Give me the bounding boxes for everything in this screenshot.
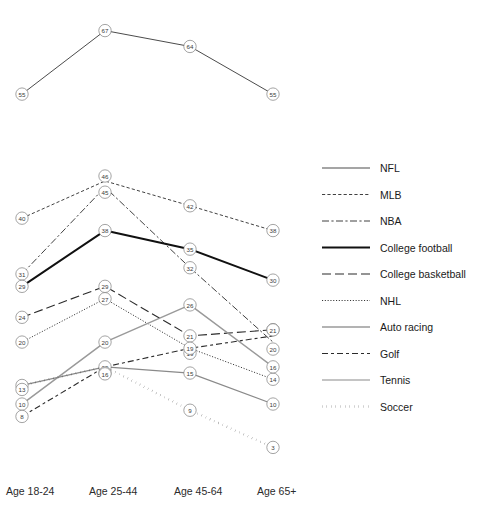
x-axis-labels: Age 18-24Age 25-44Age 45-64Age 65+ <box>6 485 296 497</box>
data-point: 26 <box>184 299 196 311</box>
data-point: 13 <box>16 383 28 395</box>
data-point: 64 <box>184 40 196 52</box>
data-point: 31 <box>16 268 28 280</box>
chart-legend: NFLMLBNBACollege footballCollege basketb… <box>322 162 466 413</box>
svg-text:55: 55 <box>19 91 26 98</box>
legend-label-college-football: College football <box>380 242 452 254</box>
legend-label-tennis: Tennis <box>380 374 410 386</box>
series-line-tennis <box>22 367 273 404</box>
data-point: 27 <box>99 293 111 305</box>
svg-text:10: 10 <box>19 401 26 408</box>
svg-text:30: 30 <box>270 277 277 284</box>
data-point: 9 <box>184 404 196 416</box>
svg-text:24: 24 <box>19 314 26 321</box>
legend-label-college-basketball: College basketball <box>380 268 466 280</box>
data-point: 29 <box>99 280 111 292</box>
svg-text:13: 13 <box>19 386 26 393</box>
x-axis-tick-2: Age 45-64 <box>174 485 223 497</box>
series-line-nba <box>22 187 273 342</box>
svg-text:26: 26 <box>187 302 194 309</box>
svg-text:45: 45 <box>102 189 109 196</box>
svg-text:21: 21 <box>187 333 194 340</box>
x-axis-tick-1: Age 25-44 <box>89 485 138 497</box>
series-line-college-basketball <box>22 286 273 336</box>
svg-text:16: 16 <box>270 364 277 371</box>
svg-text:38: 38 <box>102 227 109 234</box>
data-point: 21 <box>267 324 279 336</box>
data-point: 42 <box>184 200 196 212</box>
data-point: 38 <box>99 224 111 236</box>
data-point: 21 <box>184 330 196 342</box>
legend-label-nhl: NHL <box>380 295 401 307</box>
data-point: 14 <box>267 373 279 385</box>
svg-text:16: 16 <box>102 371 109 378</box>
svg-text:32: 32 <box>187 265 194 272</box>
svg-text:21: 21 <box>270 327 277 334</box>
svg-text:38: 38 <box>270 227 277 234</box>
data-point: 16 <box>99 368 111 380</box>
data-point: 10 <box>16 398 28 410</box>
data-point: 32 <box>184 262 196 274</box>
svg-text:3: 3 <box>271 444 275 451</box>
data-point: 55 <box>16 88 28 100</box>
data-point: 45 <box>99 186 111 198</box>
data-point: 3 <box>267 441 279 453</box>
data-point: 20 <box>99 336 111 348</box>
data-point: 24 <box>16 311 28 323</box>
legend-label-golf: Golf <box>380 348 399 360</box>
data-point: 38 <box>267 224 279 236</box>
svg-text:20: 20 <box>270 346 277 353</box>
legend-label-soccer: Soccer <box>380 401 413 413</box>
svg-text:29: 29 <box>19 283 26 290</box>
series-line-nfl <box>22 31 273 95</box>
data-point: 16 <box>267 361 279 373</box>
svg-text:35: 35 <box>187 246 194 253</box>
data-point: 20 <box>16 336 28 348</box>
legend-label-nba: NBA <box>380 215 402 227</box>
data-point: 40 <box>16 212 28 224</box>
svg-text:46: 46 <box>102 173 109 180</box>
data-point: 19 <box>184 342 196 354</box>
chart-canvas: 5567645540464238314532202938353024292122… <box>0 0 486 516</box>
series-line-college-football <box>22 231 273 287</box>
svg-text:14: 14 <box>270 376 277 383</box>
svg-text:10: 10 <box>270 401 277 408</box>
data-point: 10 <box>267 398 279 410</box>
svg-text:42: 42 <box>187 203 194 210</box>
svg-text:20: 20 <box>102 339 109 346</box>
svg-text:55: 55 <box>270 91 277 98</box>
svg-text:40: 40 <box>19 215 26 222</box>
legend-label-nfl: NFL <box>380 162 400 174</box>
series-layer <box>22 31 273 448</box>
legend-label-auto-racing: Auto racing <box>380 321 433 333</box>
line-chart: 5567645540464238314532202938353024292122… <box>0 0 486 516</box>
svg-text:27: 27 <box>102 296 109 303</box>
series-line-auto-racing <box>22 305 273 404</box>
legend-label-mlb: MLB <box>380 189 402 201</box>
data-point: 29 <box>16 280 28 292</box>
svg-text:8: 8 <box>20 413 24 420</box>
svg-text:31: 31 <box>19 271 26 278</box>
svg-text:15: 15 <box>187 370 194 377</box>
data-point: 15 <box>184 367 196 379</box>
data-point: 8 <box>16 410 28 422</box>
series-line-soccer <box>22 367 273 448</box>
data-point: 67 <box>99 24 111 36</box>
svg-text:9: 9 <box>188 407 192 414</box>
x-axis-tick-3: Age 65+ <box>257 485 296 497</box>
svg-text:67: 67 <box>102 27 109 34</box>
data-point: 20 <box>267 343 279 355</box>
data-point: 55 <box>267 88 279 100</box>
svg-text:29: 29 <box>102 283 109 290</box>
data-point: 35 <box>184 243 196 255</box>
series-line-mlb <box>22 181 273 231</box>
svg-text:64: 64 <box>187 43 194 50</box>
x-axis-tick-0: Age 18-24 <box>6 485 55 497</box>
data-point: 46 <box>99 170 111 182</box>
data-point: 30 <box>267 274 279 286</box>
svg-text:19: 19 <box>187 345 194 352</box>
svg-text:20: 20 <box>19 339 26 346</box>
